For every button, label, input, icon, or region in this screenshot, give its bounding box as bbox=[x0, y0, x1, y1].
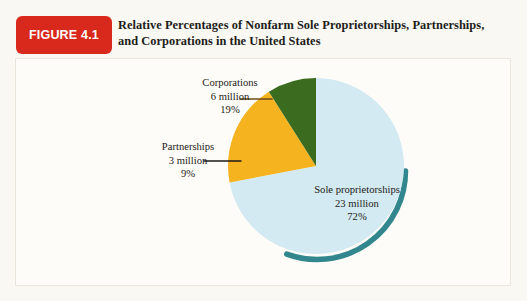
figure-number-label: FIGURE 4.1 bbox=[29, 28, 99, 42]
figure-container: FIGURE 4.1 Relative Percentages of Nonfa… bbox=[0, 0, 527, 301]
slice-label-corporations-percent: 19% bbox=[176, 103, 284, 117]
figure-header: FIGURE 4.1 Relative Percentages of Nonfa… bbox=[0, 0, 527, 62]
slice-label-sole-proprietorships: Sole proprietorships 23 million 72% bbox=[295, 183, 419, 224]
slice-label-partnerships-amount: 3 million bbox=[134, 154, 242, 168]
slice-label-corporations-name: Corporations bbox=[176, 76, 284, 90]
slice-label-sole-proprietorships-name: Sole proprietorships bbox=[295, 183, 419, 197]
slice-label-corporations: Corporations 6 million 19% bbox=[176, 76, 284, 117]
slice-label-sole-proprietorships-amount: 23 million bbox=[295, 197, 419, 211]
figure-title: Relative Percentages of Nonfarm Sole Pro… bbox=[118, 17, 512, 50]
slice-label-partnerships: Partnerships 3 million 9% bbox=[134, 140, 242, 181]
slice-label-partnerships-percent: 9% bbox=[134, 167, 242, 181]
slice-label-partnerships-name: Partnerships bbox=[134, 140, 242, 154]
figure-title-line-1: Relative Percentages of Nonfarm Sole Pro… bbox=[118, 17, 512, 33]
slice-label-sole-proprietorships-percent: 72% bbox=[295, 210, 419, 224]
figure-title-line-2: and Corporations in the United States bbox=[118, 33, 512, 49]
figure-number-badge: FIGURE 4.1 bbox=[16, 16, 112, 54]
slice-label-corporations-amount: 6 million bbox=[176, 90, 284, 104]
